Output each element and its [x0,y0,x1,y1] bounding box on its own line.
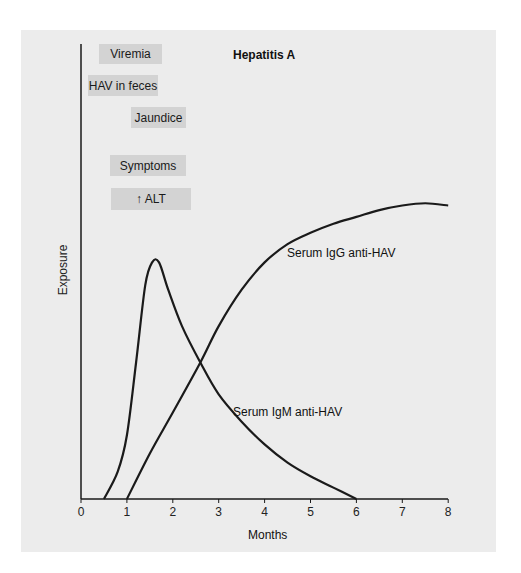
phase-label: Jaundice [134,111,182,125]
igg-annotation: Serum IgG anti-HAV [287,246,395,260]
chart-plot [0,0,521,573]
x-tick-label: 7 [399,505,406,519]
igm-annotation: Serum IgM anti-HAV [233,405,342,419]
phase-label: Viremia [110,47,150,61]
phase-hav-in-feces: HAV in feces [88,75,158,96]
phase-label: ↑ ALT [136,192,166,206]
x-tick-label: 1 [124,505,131,519]
x-tick-label: 3 [215,505,222,519]
phase-alt: ↑ ALT [111,188,191,210]
x-tick-label: 4 [261,505,268,519]
phase-symptoms: Symptoms [110,155,186,176]
y-axis-label: Exposure [56,245,70,296]
x-axis-label: Months [248,528,287,542]
phase-viremia: Viremia [99,44,162,64]
igm-curve [104,259,356,499]
phase-jaundice: Jaundice [131,107,186,128]
x-tick-label: 5 [307,505,314,519]
chart-title: Hepatitis A [233,48,295,62]
phase-label: HAV in feces [89,79,157,93]
x-tick-label: 0 [78,505,85,519]
phase-label: Symptoms [120,159,177,173]
x-tick-label: 6 [353,505,360,519]
x-tick-label: 2 [169,505,176,519]
x-tick-label: 8 [445,505,452,519]
